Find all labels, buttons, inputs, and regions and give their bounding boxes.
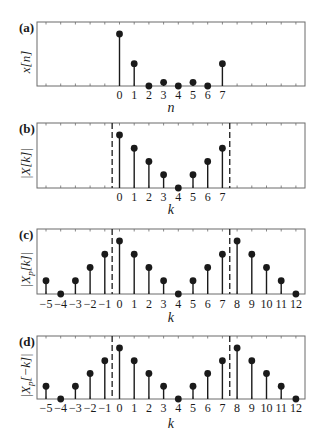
stem (190, 383, 197, 399)
stem-marker (131, 357, 138, 364)
stem-marker (190, 383, 197, 390)
stem-marker (101, 251, 108, 258)
y-axis-label: |X[k]| (18, 148, 33, 179)
stem-marker (43, 383, 50, 390)
x-tick-label: 6 (205, 88, 211, 102)
stem-marker (248, 357, 255, 364)
stem (263, 370, 270, 399)
x-tick-label: 9 (249, 401, 255, 415)
x-tick-label: 4 (175, 297, 181, 311)
x-tick-label: −1 (98, 401, 111, 415)
stem (160, 171, 167, 188)
stem (263, 264, 270, 294)
stem (204, 158, 211, 188)
x-tick-label: 11 (275, 401, 287, 415)
x-tick-label: −4 (54, 401, 67, 415)
x-tick-label: 11 (275, 297, 287, 311)
x-tick-label: 2 (146, 88, 152, 102)
y-axis-label: x[n] (18, 51, 33, 74)
x-tick-label: 1 (131, 88, 137, 102)
panel-b: 01234567k(b)|X[k]| (18, 121, 305, 217)
x-tick-label: −5 (40, 297, 53, 311)
y-axis-label: |Xp[−k]| (18, 353, 35, 397)
x-tick-label: 8 (234, 401, 240, 415)
stem (160, 79, 167, 86)
axes-frame (37, 336, 305, 399)
stem (190, 277, 197, 294)
stem-marker (190, 277, 197, 284)
stem-marker (43, 277, 50, 284)
x-tick-label: −4 (54, 297, 67, 311)
stem-marker (219, 60, 226, 67)
stem-marker (146, 158, 153, 165)
stem-marker (219, 357, 226, 364)
x-tick-label: 4 (175, 190, 181, 204)
stem (116, 238, 123, 294)
stem (72, 383, 79, 399)
stem (278, 383, 285, 399)
stem-marker (160, 171, 167, 178)
stem (43, 383, 50, 399)
stem-marker (160, 383, 167, 390)
stem (116, 31, 123, 86)
stem-marker (101, 357, 108, 364)
stem (190, 171, 197, 188)
stem (204, 264, 211, 294)
x-tick-label: −1 (98, 297, 111, 311)
x-tick-label: 3 (161, 88, 167, 102)
x-tick-label: 3 (161, 401, 167, 415)
x-axis-label: n (167, 100, 174, 115)
stem-marker (87, 264, 94, 271)
stem-marker (146, 264, 153, 271)
x-tick-label: 7 (219, 190, 225, 204)
stem-marker (190, 79, 197, 86)
stem-marker (116, 238, 123, 245)
x-tick-label: 4 (175, 88, 181, 102)
stem-marker (219, 251, 226, 258)
stem-marker (72, 277, 79, 284)
stem (72, 277, 79, 294)
x-axis-label: k (168, 416, 175, 431)
x-tick-label: 0 (117, 297, 123, 311)
x-tick-label: 3 (161, 297, 167, 311)
x-tick-label: 12 (290, 401, 302, 415)
panel-letter: (c) (19, 227, 33, 242)
stem-marker (204, 158, 211, 165)
stem-marker (146, 370, 153, 377)
stem (248, 251, 255, 294)
stem (131, 357, 138, 399)
stem-marker (116, 345, 123, 352)
axes-frame (37, 229, 305, 294)
stem-marker (263, 264, 270, 271)
stem (87, 264, 94, 294)
stem (219, 357, 226, 399)
x-tick-label: 2 (146, 190, 152, 204)
stem (146, 264, 153, 294)
stem (131, 60, 138, 86)
stem-marker (219, 145, 226, 152)
stem (116, 132, 123, 188)
stem (146, 370, 153, 399)
stem-marker (190, 171, 197, 178)
x-tick-label: 0 (117, 88, 123, 102)
stem-marker (204, 264, 211, 271)
x-tick-label: 7 (219, 88, 225, 102)
stem-marker (116, 132, 123, 139)
stem-marker (234, 345, 241, 352)
x-axis-label: k (168, 310, 175, 325)
stem-marker (116, 31, 123, 38)
stem-marker (278, 383, 285, 390)
stem (43, 277, 50, 294)
stem (219, 251, 226, 294)
x-tick-label: −2 (84, 401, 97, 415)
figure: 01234567n(a)x[n]01234567k(b)|X[k]|−5−4−3… (0, 0, 322, 446)
axes-frame (37, 22, 305, 86)
x-tick-label: 6 (205, 190, 211, 204)
panel-letter: (d) (19, 334, 35, 349)
x-tick-label: −3 (69, 401, 82, 415)
stem (146, 158, 153, 188)
stem-marker (160, 277, 167, 284)
x-tick-label: 6 (205, 297, 211, 311)
x-tick-label: 0 (117, 401, 123, 415)
x-tick-label: −2 (84, 297, 97, 311)
